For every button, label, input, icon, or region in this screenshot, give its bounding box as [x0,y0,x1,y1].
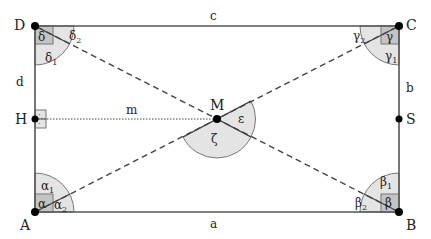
label-d: D [14,17,25,33]
label-delta: δ [38,30,45,44]
label-h: H [15,111,27,127]
label-alpha: α [38,197,46,211]
label-epsilon: ε [238,112,244,126]
point-b [395,208,403,216]
label-side-d: d [16,75,24,89]
label-s: S [406,111,416,127]
right-angle-dot-top: · [38,110,41,119]
point-c [395,22,403,30]
rectangle-diagram: A B C D M H S a b c d m α α1 α2 β β1 β2 … [0,0,431,239]
label-segment-m: m [126,103,138,117]
label-m: M [210,97,224,113]
label-b: B [406,217,416,233]
label-beta: β [385,196,392,210]
label-side-a: a [210,217,217,231]
point-s [396,116,403,123]
point-d [31,22,39,30]
label-gamma: γ [386,30,393,44]
label-zeta: ζ [211,132,218,146]
point-m [213,115,221,123]
label-side-b: b [406,81,414,95]
label-side-c: c [210,9,217,23]
label-delta2: δ2 [69,29,81,45]
label-a: A [19,217,31,233]
right-angle-dot-bottom: · [38,119,41,128]
label-c: C [406,17,417,33]
